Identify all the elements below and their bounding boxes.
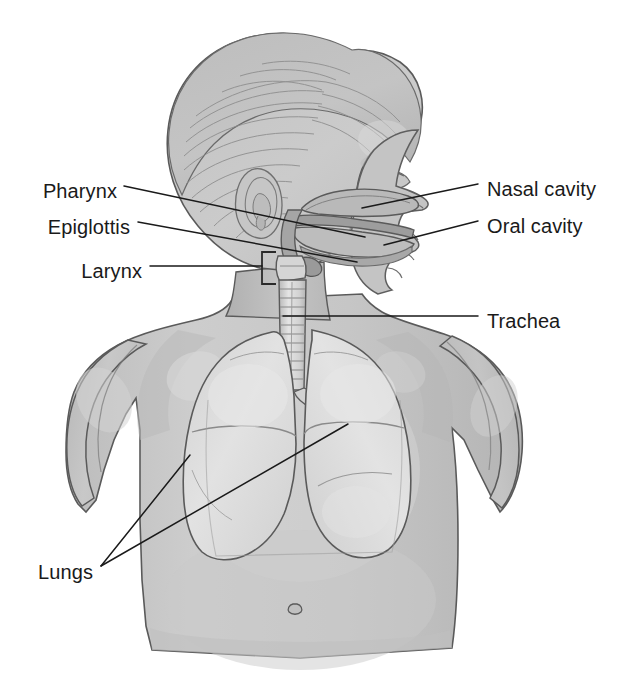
infant-respiratory-illustration <box>0 0 620 689</box>
ear <box>236 169 283 239</box>
navel <box>288 604 302 614</box>
right-lung-highlight <box>320 364 396 424</box>
chin-crease <box>388 268 402 278</box>
larynx <box>276 256 306 282</box>
left-lung-highlight <box>208 364 288 428</box>
right-lung-lower-highlight <box>322 486 390 538</box>
label-larynx: Larynx <box>81 261 142 281</box>
label-trachea: Trachea <box>487 311 560 331</box>
label-lungs: Lungs <box>38 562 93 582</box>
label-pharynx: Pharynx <box>43 181 117 201</box>
label-nasal-cavity: Nasal cavity <box>487 179 596 199</box>
label-epiglottis: Epiglottis <box>48 217 130 237</box>
label-oral-cavity: Oral cavity <box>487 216 583 236</box>
anatomy-diagram: Pharynx Epiglottis Larynx Lungs Nasal ca… <box>0 0 620 689</box>
larynx-shape <box>276 256 306 282</box>
